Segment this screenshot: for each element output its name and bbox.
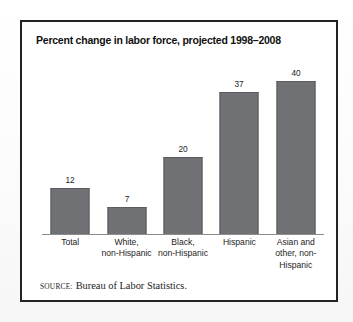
category-line: Hispanic: [266, 260, 326, 271]
bar-slot: 20: [155, 50, 211, 234]
category-line: Asian and: [266, 237, 326, 248]
bar-asian-and-other-non-hispanic: [276, 81, 315, 234]
bar-black-non-hispanic: [163, 157, 202, 233]
source-note-text: Bureau of Labor Statistics.: [76, 280, 187, 291]
category-label-total: Total: [40, 237, 100, 248]
bar-slot: 7: [98, 50, 154, 234]
category-label-black-non-hispanic: Black, non-Hispanic: [153, 237, 213, 260]
category-line: other, non-: [266, 248, 326, 259]
bar-value-white-non-hispanic: 7: [124, 194, 129, 204]
bar-hispanic: [220, 92, 259, 233]
bar-total: [51, 188, 90, 234]
bar-value-total: 12: [66, 175, 75, 185]
bar-slot: 40: [268, 50, 324, 234]
source-note-label: Source:: [40, 282, 73, 291]
category-line: non-Hispanic: [97, 248, 157, 259]
source-note: Source:Bureau of Labor Statistics.: [40, 275, 187, 293]
x-axis-baseline: [42, 234, 324, 236]
category-line: non-Hispanic: [153, 248, 213, 259]
page-title: Percent change in labor force, projected…: [36, 34, 281, 46]
category-label-hispanic: Hispanic: [209, 237, 269, 248]
category-line: White,: [97, 237, 157, 248]
bar-slot: 37: [211, 50, 267, 234]
bar-value-asian-and-other-non-hispanic: 40: [291, 68, 300, 78]
bar-white-non-hispanic: [107, 207, 146, 234]
bar-slot: 12: [42, 50, 98, 234]
bar-value-black-non-hispanic: 20: [178, 144, 187, 154]
category-line: Total: [40, 237, 100, 248]
category-label-asian-and-other-non-hispanic: Asian and other, non- Hispanic: [266, 237, 326, 271]
figure-frame: Percent change in labor force, projected…: [20, 20, 338, 302]
category-label-white-non-hispanic: White, non-Hispanic: [97, 237, 157, 260]
scanned-page: Percent change in labor force, projected…: [0, 0, 353, 322]
category-line: Hispanic: [209, 237, 269, 248]
plot-area: 12 7 20 37 40: [42, 50, 324, 235]
bar-value-hispanic: 37: [235, 79, 244, 89]
category-line: Black,: [153, 237, 213, 248]
